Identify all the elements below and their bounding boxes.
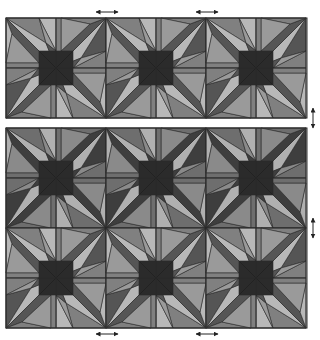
pinwheel-tile	[106, 18, 206, 118]
pinwheel-tile	[106, 128, 206, 228]
pinwheel-tile	[6, 18, 106, 118]
pinwheel-tile	[206, 18, 306, 118]
pinwheel-tile	[6, 128, 106, 228]
panels-group	[6, 18, 307, 328]
tessellation-figure	[0, 0, 320, 340]
pinwheel-tile	[206, 128, 306, 228]
tiling-diagram	[0, 0, 320, 340]
pinwheel-tile	[6, 228, 106, 328]
pinwheel-tile	[206, 228, 306, 328]
bottom-panel	[6, 128, 307, 328]
top-panel	[6, 18, 307, 118]
pinwheel-tile	[106, 228, 206, 328]
